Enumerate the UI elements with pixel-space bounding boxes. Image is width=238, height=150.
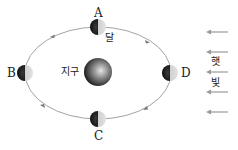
- moon-label: 달: [105, 33, 114, 43]
- sunlight-label-2: 빛: [211, 78, 220, 88]
- moon-a: [90, 19, 106, 35]
- moon-phase-diagram: A B C D 달 지구 햇 빛: [0, 0, 238, 150]
- label-a: A: [94, 7, 103, 19]
- label-d: D: [181, 67, 191, 79]
- moon-d: [162, 65, 178, 81]
- moon-c: [90, 111, 106, 127]
- moon-b: [17, 65, 33, 81]
- sunlight-arrows: [206, 30, 228, 115]
- diagram-graphics: [0, 0, 238, 150]
- earth-label: 지구: [61, 67, 79, 77]
- earth: [84, 58, 112, 86]
- label-b: B: [7, 67, 16, 79]
- label-c: C: [94, 130, 103, 142]
- sunlight-label-1: 햇: [211, 57, 220, 67]
